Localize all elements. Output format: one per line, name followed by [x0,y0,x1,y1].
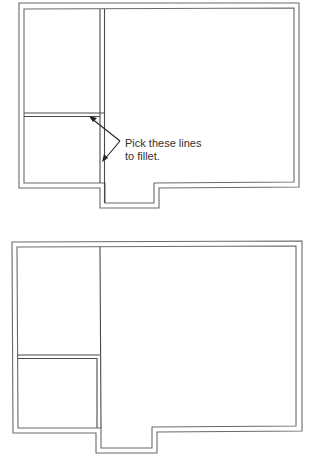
outer-wall-inner-line [17,246,296,448]
floor-plan-diagram: Pick these lines to fillet. [0,0,312,466]
interior-wall-vertical [100,247,101,428]
floor-plan-before-fillet: Pick these lines to fillet. [19,3,299,208]
floor-plan-after-fillet [12,241,302,453]
outer-wall-outer-line [19,3,299,208]
callout-text-line1: Pick these lines [125,137,202,149]
filleted-corner-lines [18,359,97,429]
outer-wall-inner-line [24,8,294,203]
outer-wall-outer-line [12,241,302,453]
leader-line-1 [91,118,120,141]
callout-text-line2: to fillet. [125,150,160,162]
